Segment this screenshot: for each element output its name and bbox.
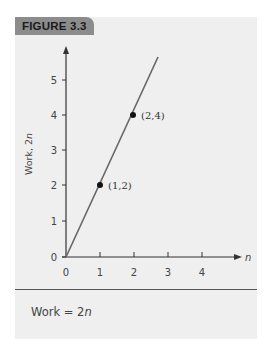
x-tick-label: 3 bbox=[165, 267, 171, 278]
y-axis-label-text: Work, 2 bbox=[23, 139, 34, 175]
y-tick-label: 1 bbox=[51, 216, 57, 227]
x-tick-label: 1 bbox=[97, 267, 103, 278]
work-line bbox=[66, 57, 158, 257]
data-point-2-4 bbox=[130, 112, 136, 118]
chart-plot: 0 1 2 3 4 5 0 1 2 3 4 n (1,2) (2,4) bbox=[0, 0, 268, 347]
y-tick-label: 2 bbox=[51, 180, 57, 191]
caption-text: Work = 2 bbox=[31, 305, 84, 319]
caption-divider bbox=[15, 289, 257, 290]
x-ticks bbox=[100, 252, 202, 257]
y-tick-label: 3 bbox=[51, 145, 57, 156]
point-label-2-4: (2,4) bbox=[141, 110, 165, 121]
point-label-1-2: (1,2) bbox=[108, 180, 132, 191]
data-point-1-2 bbox=[97, 182, 103, 188]
y-axis-label: Work, 2n bbox=[23, 133, 34, 175]
y-tick-label: 4 bbox=[51, 110, 57, 121]
y-tick-label: 5 bbox=[51, 75, 57, 86]
x-tick-label: 4 bbox=[199, 267, 205, 278]
y-tick-label: 0 bbox=[51, 252, 57, 263]
figure-caption: Work = 2n bbox=[31, 305, 92, 319]
y-axis-label-var: n bbox=[23, 133, 34, 139]
x-axis-label: n bbox=[245, 252, 251, 263]
x-tick-label: 2 bbox=[131, 267, 137, 278]
x-tick-label: 0 bbox=[63, 267, 69, 278]
x-axis-arrow-icon bbox=[234, 254, 242, 260]
y-axis-arrow-icon bbox=[63, 46, 69, 54]
caption-var: n bbox=[84, 305, 91, 319]
